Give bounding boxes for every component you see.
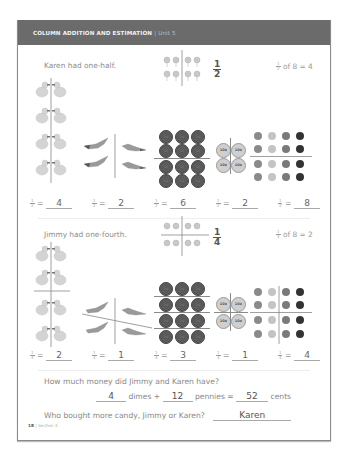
page-footer: 18 | Section 3 xyxy=(28,423,58,428)
question-candy-text: Who bought more candy, Jimmy or Karen? xyxy=(44,411,205,420)
penny-coin: 1¢ xyxy=(191,298,205,312)
flowers-group-half xyxy=(161,50,211,86)
equals-sign: = xyxy=(285,351,292,360)
penny-coin: 1¢ xyxy=(191,160,205,174)
answers-row-2: 14 = 2 14 = 1 14 = 3 14 = 1 14 = 4 xyxy=(30,350,320,361)
penny-coin: 1¢ xyxy=(175,314,189,328)
of-denominator: 4 xyxy=(276,235,281,239)
hummingbird-icon xyxy=(82,298,152,344)
dime-coin: 10¢ xyxy=(216,314,231,329)
penny-label: 1¢ xyxy=(192,299,204,311)
question-money: How much money did Jimmy and Karen have? xyxy=(44,377,219,386)
footer-separator: | xyxy=(35,423,36,428)
penny-coin: 1¢ xyxy=(191,282,205,296)
answer-dime-half: 12 = 2 xyxy=(216,198,258,209)
dime-coin: 10¢ xyxy=(231,158,246,173)
equals-sign: = xyxy=(99,351,106,360)
answer-blank[interactable]: 1 xyxy=(108,350,134,361)
penny-label: 1¢ xyxy=(176,283,188,295)
penny-coin: 1¢ xyxy=(159,130,173,144)
equals-sign: = xyxy=(161,199,168,208)
fraction-denominator: 4 xyxy=(213,238,221,247)
equals-sign: = xyxy=(161,351,168,360)
ans-denominator: 2 xyxy=(30,204,35,208)
pennies-answer-blank[interactable]: 12 xyxy=(163,391,193,402)
penny-coin: 1¢ xyxy=(159,144,173,158)
dime-coin: 10¢ xyxy=(231,297,246,312)
dimes-answer-blank[interactable]: 4 xyxy=(96,391,126,402)
ans-denominator: 2 xyxy=(92,204,97,208)
equals-sign: = xyxy=(37,199,44,208)
divider-line xyxy=(154,328,210,329)
penny-coin: 1¢ xyxy=(175,174,189,188)
candy-answer-blank[interactable]: Karen xyxy=(213,410,291,421)
ducks-group-2 xyxy=(34,240,68,348)
answer-penny-fourth: 14 = 3 xyxy=(154,350,196,361)
answer-blank[interactable]: 2 xyxy=(232,198,258,209)
answer-blank[interactable]: 8 xyxy=(294,198,320,209)
ans-denominator: 4 xyxy=(154,356,159,360)
divider-line xyxy=(154,296,210,297)
penny-label: 1¢ xyxy=(192,175,204,187)
penny-label: 1¢ xyxy=(192,283,204,295)
dime-label: 10¢ xyxy=(217,298,230,311)
divider-line xyxy=(214,312,248,313)
penny-coin: 1¢ xyxy=(175,160,189,174)
equals-sign: = xyxy=(285,199,292,208)
birds-group-2 xyxy=(82,298,152,344)
answer-blank[interactable]: 2 xyxy=(46,350,72,361)
dime-label: 10¢ xyxy=(232,315,245,328)
dime-coin: 10¢ xyxy=(231,314,246,329)
penny-label: 1¢ xyxy=(160,131,172,143)
money-equation: 4 dimes + 12 pennies = 52 cents xyxy=(96,391,291,402)
fraction-denominator: 2 xyxy=(213,70,221,79)
section-divider xyxy=(38,370,310,371)
dime-label: 10¢ xyxy=(217,315,230,328)
cents-label: cents xyxy=(270,392,291,401)
penny-coin: 1¢ xyxy=(159,330,173,344)
equals-sign: = xyxy=(223,351,230,360)
penny-coin: 1¢ xyxy=(175,298,189,312)
header-title: COLUMN ADDITION AND ESTIMATION | Unit 5 xyxy=(33,30,176,36)
dime-label: 10¢ xyxy=(217,159,230,172)
equals-sign: = xyxy=(37,351,44,360)
pennies-group-2: 1¢ 1¢ 1¢ 1¢ 1¢ 1¢ 1¢ 1¢ 1¢ 1¢ 1¢ 1¢ xyxy=(156,282,210,346)
ans-denominator: 2 xyxy=(216,204,221,208)
of-text: of 8 = 2 xyxy=(283,230,313,239)
dime-label: 10¢ xyxy=(232,159,245,172)
divider-line xyxy=(154,312,210,313)
question-candy: Who bought more candy, Jimmy or Karen? K… xyxy=(44,410,291,421)
answer-blank[interactable]: 4 xyxy=(46,198,72,209)
dimes-group-2: 10¢ 10¢ 10¢ 10¢ xyxy=(216,293,246,331)
dime-coin: 10¢ xyxy=(216,158,231,173)
answer-blank[interactable]: 4 xyxy=(294,350,320,361)
answer-blank[interactable]: 1 xyxy=(232,350,258,361)
candy-icon xyxy=(250,130,312,186)
ans-denominator: 4 xyxy=(216,356,221,360)
penny-coin: 1¢ xyxy=(175,144,189,158)
penny-label: 1¢ xyxy=(160,283,172,295)
flower-icon xyxy=(161,50,211,86)
cents-answer-blank[interactable]: 52 xyxy=(236,391,268,402)
answer-blank[interactable]: 3 xyxy=(170,350,196,361)
penny-label: 1¢ xyxy=(192,161,204,173)
penny-coin: 1¢ xyxy=(159,298,173,312)
candy-group-2 xyxy=(250,286,312,346)
fraction-one-fourth: 1 4 xyxy=(213,228,221,247)
answer-blank[interactable]: 6 xyxy=(170,198,196,209)
page-number: 18 xyxy=(28,423,34,428)
penny-label: 1¢ xyxy=(176,315,188,327)
penny-label: 1¢ xyxy=(160,299,172,311)
of-denominator: 2 xyxy=(276,67,281,71)
penny-label: 1¢ xyxy=(160,161,172,173)
penny-label: 1¢ xyxy=(160,331,172,343)
answer-candy-half: 12 = 8 xyxy=(278,198,320,209)
ans-denominator: 2 xyxy=(154,204,159,208)
dimes-label: dimes + xyxy=(128,392,160,401)
penny-label: 1¢ xyxy=(176,299,188,311)
penny-label: 1¢ xyxy=(160,175,172,187)
penny-label: 1¢ xyxy=(192,331,204,343)
dime-coin: 10¢ xyxy=(216,297,231,312)
dime-label: 10¢ xyxy=(217,144,230,157)
answer-blank[interactable]: 2 xyxy=(108,198,134,209)
